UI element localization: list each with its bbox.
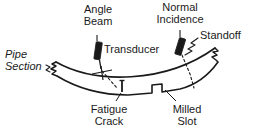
normal-incidence-probe-body xyxy=(175,37,186,55)
leader-milled-slot xyxy=(165,90,176,101)
leader-standoff xyxy=(185,38,198,55)
label-fatigue-crack: Fatigue Crack xyxy=(78,103,140,127)
label-pipe-section: Pipe Section xyxy=(5,48,63,72)
angle-beam-transducer xyxy=(94,42,103,69)
label-transducer: Transducer xyxy=(104,43,168,55)
pipe-inner-surface xyxy=(57,62,218,95)
fatigue-crack-defect xyxy=(120,80,125,92)
angle-beam-axis-marks xyxy=(92,66,112,80)
angle-beam-surface-normal xyxy=(101,66,103,80)
normal-incidence-transducer xyxy=(175,37,186,55)
ultrasonic-pipe-inspection-figure: Angle Beam Normal Incidence Standoff Tra… xyxy=(0,0,260,135)
label-standoff: Standoff xyxy=(200,29,258,41)
label-normal-incidence: Normal Incidence xyxy=(143,1,217,25)
label-angle-beam: Angle Beam xyxy=(68,3,128,27)
label-milled-slot: Milled Slot xyxy=(159,103,215,127)
angle-beam-ray-path xyxy=(102,71,117,88)
angle-beam-probe-body xyxy=(94,42,103,60)
standoff-beam-path xyxy=(182,55,194,88)
